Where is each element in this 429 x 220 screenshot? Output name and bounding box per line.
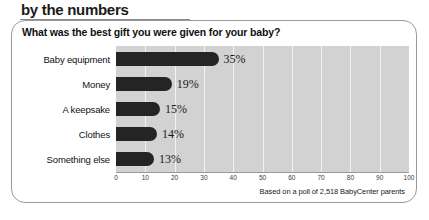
chart-x-tick-label: 90 <box>376 174 383 181</box>
chart-x-tick-label: 20 <box>171 174 178 181</box>
chart-x-tick-label: 10 <box>142 174 149 181</box>
chart-bars-layer: 35%19%15%14%13% <box>116 46 409 172</box>
chart-category-axis: Baby equipmentMoneyA keepsakeClothesSome… <box>0 46 110 172</box>
chart-category-label: Baby equipment <box>0 53 110 64</box>
chart-bar <box>116 127 157 141</box>
chart-bar-value-label: 13% <box>159 152 181 167</box>
chart-bar <box>116 77 172 91</box>
chart-x-tick-label: 80 <box>347 174 354 181</box>
chart-bar <box>116 152 154 166</box>
chart-bar <box>116 102 160 116</box>
chart-source-note: Based on a poll of 2,518 BabyCenter pare… <box>260 187 405 196</box>
chart-bar <box>116 52 219 66</box>
page-title: by the numbers <box>21 1 129 18</box>
chart-bar-value-label: 35% <box>224 51 246 66</box>
chart-x-tick-label: 100 <box>404 174 415 181</box>
chart-x-tick-label: 30 <box>200 174 207 181</box>
chart-x-tick-label: 60 <box>288 174 295 181</box>
chart-x-axis-line <box>116 172 409 173</box>
chart-x-tick-label: 70 <box>317 174 324 181</box>
chart-category-label: Something else <box>0 154 110 165</box>
chart-category-label: A keepsake <box>0 104 110 115</box>
chart-category-label: Clothes <box>0 129 110 140</box>
chart-question-title: What was the best gift you were given fo… <box>22 26 280 38</box>
chart-bar-value-label: 15% <box>165 102 187 117</box>
chart-x-tick-label: 0 <box>114 174 118 181</box>
chart-bar-value-label: 19% <box>177 76 199 91</box>
chart-x-tick-label: 50 <box>259 174 266 181</box>
chart-category-label: Money <box>0 78 110 89</box>
chart-x-tick-label: 40 <box>230 174 237 181</box>
chart-bar-value-label: 14% <box>162 127 184 142</box>
